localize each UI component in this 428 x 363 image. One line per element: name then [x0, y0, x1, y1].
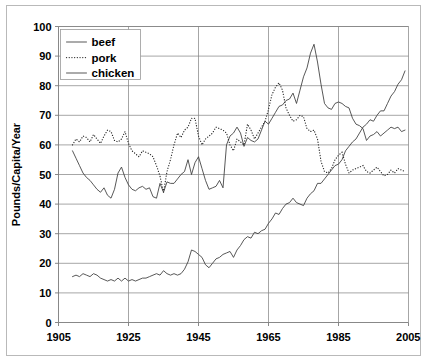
- legend-label-beef: beef: [92, 36, 116, 48]
- x-axis-tick-label: 1985: [326, 331, 350, 343]
- y-axis-title-text: Pounds/Capita/Year: [10, 122, 22, 226]
- chart-legend: beefporkchicken: [61, 30, 141, 80]
- y-axis-tick-label: 90: [39, 50, 51, 62]
- y-axis-tick-label: 20: [39, 257, 51, 269]
- y-axis-tick-label: 0: [45, 317, 51, 329]
- x-axis-tick-label: 1905: [47, 331, 71, 343]
- legend-label-pork: pork: [92, 52, 118, 64]
- x-axis-tick-label: 1945: [186, 331, 210, 343]
- y-axis-tick-label: 40: [39, 198, 51, 210]
- y-axis-tick-label: 50: [39, 169, 51, 181]
- meat-consumption-line-chart: 0102030405060708090100 19051925194519651…: [0, 0, 428, 363]
- series-line-pork: [73, 83, 406, 193]
- y-axis-tick-label: 30: [39, 228, 51, 240]
- x-axis-tick-label: 2005: [396, 331, 420, 343]
- y-axis-tick-label: 100: [33, 21, 51, 33]
- y-axis-title: Pounds/Capita/Year: [10, 122, 22, 226]
- x-axis-tick-label: 1965: [256, 331, 280, 343]
- y-axis-tick-labels: 0102030405060708090100: [33, 21, 51, 329]
- legend-label-chicken: chicken: [92, 67, 135, 79]
- y-axis-tick-label: 80: [39, 80, 51, 92]
- y-axis-tick-label: 60: [39, 139, 51, 151]
- x-axis-tick-label: 1925: [116, 331, 140, 343]
- chart-screenshot: 0102030405060708090100 19051925194519651…: [0, 0, 428, 363]
- x-axis-tick-labels: 190519251945196519852005: [47, 331, 421, 343]
- y-axis-tick-label: 10: [39, 287, 51, 299]
- y-axis-tick-label: 70: [39, 109, 51, 121]
- series-line-chicken: [73, 71, 406, 281]
